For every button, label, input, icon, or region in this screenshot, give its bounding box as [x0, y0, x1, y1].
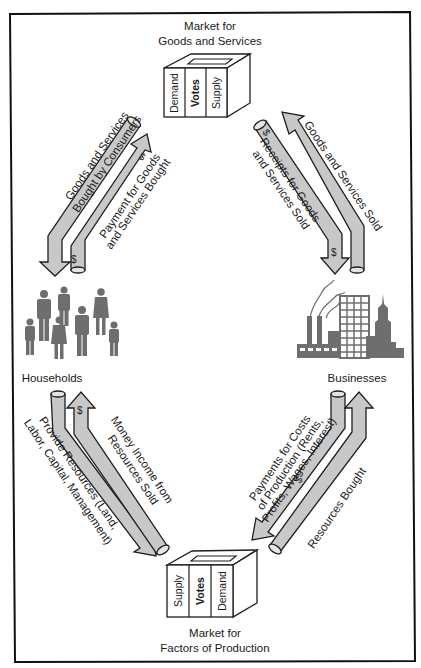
goods-box-label-demand: Demand — [168, 73, 180, 113]
goods-market-title-line2: Goods and Services — [158, 35, 262, 47]
dollar-icon: $ — [71, 254, 77, 265]
households-people-icon — [25, 287, 119, 360]
dollar-icon: $ — [77, 405, 83, 416]
goods-box-label-supply: Supply — [210, 76, 222, 109]
businesses-factory-icon — [297, 280, 404, 358]
payment-goods-label-line2: and Services Bought — [103, 156, 173, 251]
goods-market-title-line1: Market for — [184, 20, 236, 32]
dollar-icon: $ — [331, 247, 337, 258]
businesses-label: Businesses — [328, 372, 387, 384]
households-label: Households — [22, 372, 83, 384]
factors-market-title-line2: Factors of Production — [160, 642, 269, 654]
goods-market: Market for Goods and Services Demand Vot… — [158, 20, 262, 117]
factors-market: Supply Votes Demand Market for Factors o… — [160, 550, 269, 654]
factors-box-label-votes: Votes — [194, 577, 206, 605]
goods-box-label-votes: Votes — [189, 79, 201, 107]
circular-flow-diagram: Market for Goods and Services Demand Vot… — [0, 0, 421, 668]
factors-box-label-supply: Supply — [172, 574, 184, 607]
factors-box-label-demand: Demand — [216, 571, 228, 611]
factors-market-title-line1: Market for — [189, 627, 241, 639]
